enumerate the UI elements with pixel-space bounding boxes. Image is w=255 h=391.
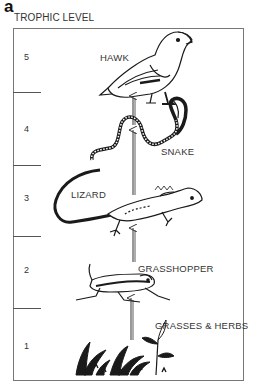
lizard-illustration: [55, 170, 202, 236]
hawk-illustration: [100, 32, 192, 104]
snake-illustration: [92, 98, 186, 160]
grasshopper-illustration: [76, 264, 170, 302]
grasses-herbs-illustration: [76, 320, 174, 375]
